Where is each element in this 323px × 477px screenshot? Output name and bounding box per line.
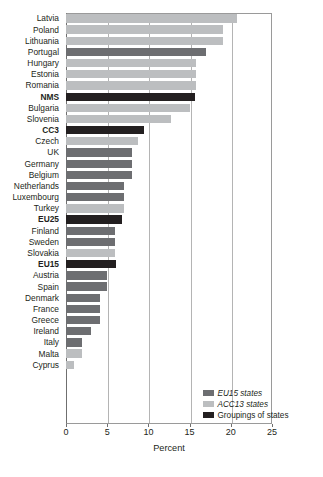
bar-row [66,24,272,35]
category-label-romania: Romania [0,80,63,91]
category-label-text: Latvia [37,14,59,22]
bar-romania [66,81,196,89]
bar-spain [66,282,107,290]
legend-label: ACC13 states [218,400,269,409]
legend-swatch [203,401,214,407]
tick-label-0: 0 [63,427,68,437]
category-label-finland: Finland [0,225,63,236]
category-label-greece: Greece [0,315,63,326]
category-label-text: Netherlands [14,182,59,190]
bar-portugal [66,48,206,56]
category-label-text: Austria [33,271,59,279]
category-label-text: Belgium [29,171,59,179]
category-label-text: Estonia [31,70,59,78]
category-label-sweden: Sweden [0,236,63,247]
bar-row [66,337,272,348]
category-label-turkey: Turkey [0,203,63,214]
category-label-text: Spain [38,283,59,291]
legend-item: EU15 states [203,388,269,399]
bar-series [66,13,272,371]
category-label-text: Cyprus [32,361,59,369]
bar-row [66,359,272,370]
bar-lithuania [66,37,223,45]
category-label-text: Malta [39,350,59,358]
category-label-text: NMS [40,93,59,101]
bar-row [66,303,272,314]
bar-eu25 [66,215,122,223]
bar-row [66,47,272,58]
bar-row [66,69,272,80]
bar-row [66,80,272,91]
category-label-eu15: EU15 [0,259,63,270]
category-label-text: Greece [32,316,59,324]
bar-eu15 [66,260,116,268]
category-label-text: Slovenia [27,115,59,123]
category-label-text: France [33,305,59,313]
category-label-portugal: Portugal [0,47,63,58]
category-label-denmark: Denmark [0,292,63,303]
category-label-czech: Czech [0,136,63,147]
bar-row [66,169,272,180]
category-label-text: Poland [33,26,59,34]
bar-cc3 [66,126,144,134]
bar-chart: LatviaPolandLithuaniaPortugalHungaryEsto… [0,0,323,477]
category-label-luxembourg: Luxembourg [0,192,63,203]
bar-row [66,236,272,247]
tick-label-5: 5 [105,427,110,437]
category-label-uk: UK [0,147,63,158]
category-axis-labels: LatviaPolandLithuaniaPortugalHungaryEsto… [0,13,63,371]
tick-label-25: 25 [267,427,277,437]
bar-denmark [66,294,100,302]
category-label-text: Romania [25,81,59,89]
bar-row [66,102,272,113]
category-label-spain: Spain [0,281,63,292]
bar-row [66,281,272,292]
bar-row [66,203,272,214]
bar-row [66,315,272,326]
bar-row [66,136,272,147]
category-label-text: UK [47,148,59,156]
category-label-eu25: EU25 [0,214,63,225]
category-label-text: Sweden [29,238,59,246]
category-label-ireland: Ireland [0,326,63,337]
category-label-text: EU25 [38,215,59,223]
bar-row [66,147,272,158]
bar-row [66,91,272,102]
bar-belgium [66,171,132,179]
tick-label-20: 20 [226,427,236,437]
bar-greece [66,316,100,324]
category-label-text: Lithuania [25,37,59,45]
bar-ireland [66,327,91,335]
bar-row [66,292,272,303]
category-label-slovakia: Slovakia [0,248,63,259]
category-label-germany: Germany [0,158,63,169]
bar-luxembourg [66,193,124,201]
bar-row [66,125,272,136]
category-label-belgium: Belgium [0,169,63,180]
bar-sweden [66,238,115,246]
tick-label-10: 10 [143,427,153,437]
category-label-latvia: Latvia [0,13,63,24]
bar-turkey [66,204,124,212]
category-label-text: Hungary [27,59,59,67]
bar-france [66,305,100,313]
bar-row [66,348,272,359]
bar-germany [66,160,132,168]
category-label-lithuania: Lithuania [0,35,63,46]
bar-row [66,158,272,169]
bar-austria [66,271,107,279]
bar-row [66,114,272,125]
bar-row [66,58,272,69]
category-label-nms: NMS [0,91,63,102]
category-label-netherlands: Netherlands [0,181,63,192]
category-label-text: Italy [44,338,59,346]
category-label-text: CC3 [42,126,59,134]
category-label-text: Czech [35,137,59,145]
category-label-bulgaria: Bulgaria [0,102,63,113]
category-label-text: Slovakia [27,249,59,257]
bar-finland [66,227,115,235]
category-label-text: Luxembourg [12,193,59,201]
bar-malta [66,349,82,357]
category-label-estonia: Estonia [0,69,63,80]
category-label-france: France [0,303,63,314]
